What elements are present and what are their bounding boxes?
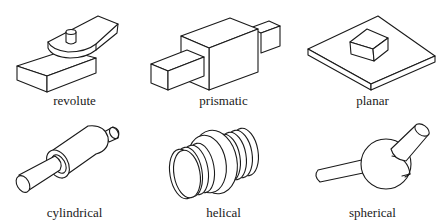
joint-cell-spherical: spherical: [298, 112, 447, 224]
joint-label-cylindrical: cylindrical: [0, 205, 149, 221]
revolute-joint-icon: [0, 0, 149, 100]
joint-cell-revolute: revolute: [0, 0, 149, 112]
joint-label-revolute: revolute: [0, 93, 149, 109]
joint-label-spherical: spherical: [298, 205, 447, 221]
joint-cell-helical: helical: [149, 112, 298, 224]
joint-cell-cylindrical: cylindrical: [0, 112, 149, 224]
planar-joint-icon: [298, 0, 447, 100]
prismatic-joint-icon: [149, 0, 298, 100]
helical-joint-icon: [149, 112, 298, 212]
joint-cell-planar: planar: [298, 0, 447, 112]
cylindrical-joint-icon: [0, 112, 149, 212]
joint-label-planar: planar: [298, 93, 447, 109]
joint-label-prismatic: prismatic: [149, 93, 298, 109]
joint-cell-prismatic: prismatic: [149, 0, 298, 112]
spherical-joint-icon: [298, 112, 447, 212]
joint-label-helical: helical: [149, 205, 298, 221]
